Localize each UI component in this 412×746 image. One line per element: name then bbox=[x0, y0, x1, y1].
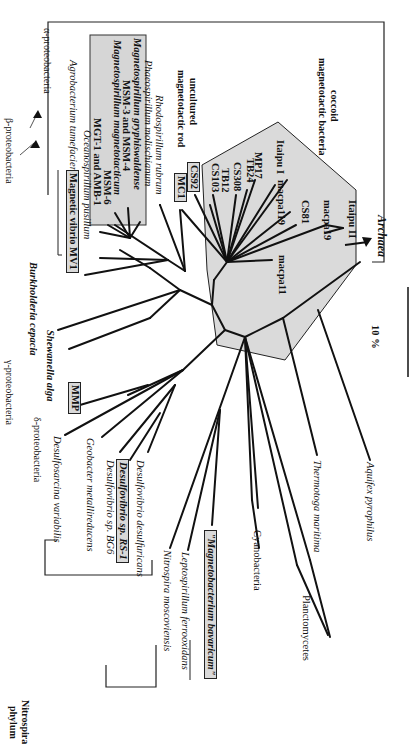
taxon-desulfovibrio-desulfuricans: Desulfovibrio desulfuricans bbox=[135, 460, 146, 577]
taxon-shewanella: Shewanella alga bbox=[45, 330, 56, 401]
taxon-macpa19: macpa19 bbox=[322, 200, 333, 240]
taxon-cyanobacteria: Cyanobacteria bbox=[252, 530, 263, 591]
taxon-msm3-msm4: MSM-3 and MSM-4 bbox=[121, 80, 132, 171]
taxon-macpa119: macpa119 bbox=[276, 180, 287, 225]
taxon-desulfovibrio-rs1: Desulfovibrio sp. RS-1 bbox=[117, 459, 130, 563]
taxon-magnetospirillum-gryphiswaldense: Magnetospirillum gryphiswaldense bbox=[132, 38, 143, 190]
taxon-leptospirillum: Leptospirillum ferrooxidans bbox=[180, 552, 191, 670]
taxon-rhodospirillum: Rhodospirillum rubrum bbox=[154, 95, 165, 194]
taxon-msm6: MSM-6 bbox=[102, 170, 113, 204]
taxon-thermotoga: Thermotoga maritima bbox=[312, 460, 323, 552]
note-uncultured: uncultured bbox=[188, 78, 198, 125]
note-coccoid: coccoid bbox=[329, 90, 339, 122]
scale-bar-label: 10 % bbox=[370, 325, 381, 349]
taxon-mgt1-amb1: MGT-1 and AMB-1 bbox=[92, 118, 103, 206]
taxon-itaipu-ii: Itaipu II bbox=[347, 200, 358, 238]
phylogenetic-tree-figure: α-proteobacteria β-proteobacteria γ-prot… bbox=[0, 0, 412, 746]
group-label-gamma: γ-proteobacteria bbox=[4, 360, 14, 425]
taxon-cs103: CS103 bbox=[210, 163, 221, 192]
taxon-mc1: MC1 bbox=[175, 173, 188, 202]
taxon-agrobacterium: Agrobacterium tumefaciens bbox=[68, 60, 79, 176]
group-label-delta: δ-proteobacteria bbox=[32, 417, 42, 482]
taxon-macpa11: macpa11 bbox=[277, 255, 288, 295]
taxon-desulfovibrio-bg6: Desulfovibrio sp. BG6 bbox=[105, 460, 116, 554]
taxon-archaea: Archaea bbox=[376, 215, 388, 257]
taxon-cs81: CS81 bbox=[300, 200, 311, 224]
taxon-aquifex: Aquifex pyrophilus bbox=[365, 462, 376, 541]
taxon-mp17: MP17 bbox=[253, 152, 264, 179]
group-label-nitrospira: Nitrospira bbox=[20, 700, 30, 744]
group-label-nitrospira-line2: phylum bbox=[8, 706, 18, 739]
group-label-alpha: α-proteobacteria bbox=[42, 28, 52, 94]
taxon-nitrospira-moscoviensis: Nitrospira moscoviensis bbox=[162, 550, 173, 651]
taxon-magnetobacterium-bavaricum: "Magnetobacterium bavaricum" bbox=[205, 530, 218, 679]
taxon-geobacter: Geobacter metallireducens bbox=[85, 438, 96, 552]
taxon-burkholderia: Burkholderia cepacia bbox=[28, 262, 39, 356]
taxon-tb12: TB12 bbox=[220, 168, 231, 193]
taxon-cs308: CS308 bbox=[232, 162, 243, 191]
taxon-phaeospirillum: Phaeospirillum molischianum bbox=[143, 60, 154, 186]
taxon-itaipu-i: Itaipu I bbox=[275, 140, 286, 174]
note-coccoid-bacteria: magnetotactic bacteria bbox=[317, 58, 327, 155]
taxon-planctomycetes: Planctomycetes bbox=[301, 595, 312, 661]
taxon-mmp: MMP bbox=[69, 382, 82, 414]
group-label-beta: β-proteobacteria bbox=[4, 118, 14, 184]
note-magnetotactic-rod: magnetotactic rod bbox=[176, 70, 186, 147]
taxon-magnetic-vibrio-mv1: Magnetic vibrio MV1 bbox=[67, 170, 80, 273]
taxon-oceanospirillum: Oceanospirillum pusillum bbox=[82, 130, 93, 239]
taxon-cs92: CS92 bbox=[188, 162, 201, 192]
taxon-desulfosarcina: Desulfosarcina variabilis bbox=[52, 436, 63, 543]
